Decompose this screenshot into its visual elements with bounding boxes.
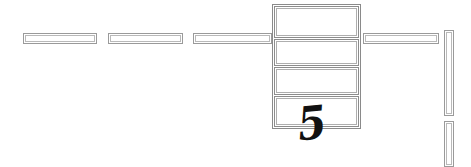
panel-1-inner-line <box>276 8 357 36</box>
wall-segment-1-inner-line <box>25 35 95 42</box>
annotation-numeral: 5 <box>295 99 328 148</box>
panel-2 <box>274 39 359 66</box>
wall-segment-5 <box>444 30 454 116</box>
wall-segment-6-inner-line <box>446 123 452 165</box>
wall-segment-2-inner-line <box>110 35 181 42</box>
wall-segment-2 <box>108 33 183 44</box>
wall-segment-3-inner-line <box>195 35 270 42</box>
panel-2-inner-line <box>276 41 357 64</box>
wall-segment-6 <box>444 121 454 167</box>
drawing-canvas: 5 <box>0 0 471 167</box>
wall-segment-3 <box>193 33 272 44</box>
wall-segment-5-inner-line <box>446 32 452 114</box>
wall-segment-1 <box>23 33 97 44</box>
panel-3-inner-line <box>276 69 357 93</box>
wall-segment-4 <box>363 33 439 44</box>
wall-segment-4-inner-line <box>365 35 437 42</box>
panel-3 <box>274 67 359 95</box>
panel-1 <box>274 6 359 38</box>
